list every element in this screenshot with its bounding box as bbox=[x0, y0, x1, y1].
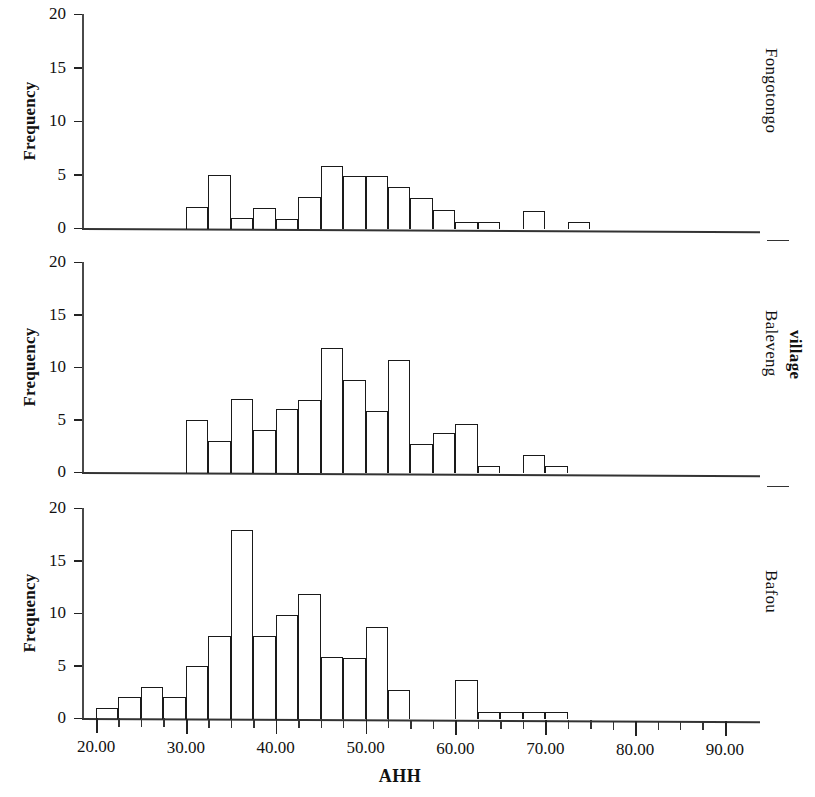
x-tick-major bbox=[96, 718, 98, 733]
x-tick-minor bbox=[163, 718, 164, 727]
y-axis-title: Frequency bbox=[20, 14, 40, 228]
x-tick-label: 60.00 bbox=[420, 740, 490, 757]
histogram-bar bbox=[276, 615, 298, 719]
village-group-label: village bbox=[785, 330, 805, 379]
y-tick-mark bbox=[74, 419, 82, 421]
histogram-bar bbox=[231, 530, 253, 719]
x-tick-major bbox=[635, 721, 637, 736]
x-tick-minor bbox=[590, 720, 591, 729]
histogram-bar bbox=[343, 176, 365, 229]
y-tick-mark bbox=[74, 228, 82, 230]
x-tick-major bbox=[276, 719, 278, 734]
y-tick-mark bbox=[74, 508, 82, 510]
histogram-bar bbox=[321, 348, 343, 473]
histogram-bar bbox=[568, 222, 590, 229]
y-tick-mark bbox=[74, 613, 82, 615]
y-tick-mark bbox=[74, 121, 82, 123]
panel-label-fongotongo: Fongotongo bbox=[761, 48, 781, 133]
y-tick-mark bbox=[74, 14, 82, 16]
histogram-bar bbox=[186, 420, 208, 474]
histogram-bar bbox=[343, 380, 365, 473]
x-tick-major bbox=[545, 720, 547, 735]
histogram-bar bbox=[253, 636, 275, 719]
x-tick-minor bbox=[343, 719, 344, 728]
histogram-bar bbox=[141, 687, 163, 720]
histogram-figure: 05101520FrequencyFongotongo05101520Frequ… bbox=[0, 0, 815, 797]
histogram-bar bbox=[366, 627, 388, 719]
x-tick-label: 20.00 bbox=[61, 738, 131, 755]
histogram-bar bbox=[433, 210, 455, 229]
histogram-bar bbox=[455, 222, 477, 229]
histogram-bar bbox=[433, 433, 455, 473]
histogram-bar bbox=[276, 219, 298, 229]
histogram-bar bbox=[208, 441, 230, 474]
histogram-bar bbox=[321, 657, 343, 719]
x-tick-minor bbox=[208, 719, 209, 728]
x-tick-label: 70.00 bbox=[510, 740, 580, 757]
histogram-bar bbox=[186, 207, 208, 229]
x-tick-minor bbox=[118, 718, 119, 727]
histogram-bar bbox=[388, 187, 410, 229]
x-tick-minor bbox=[702, 721, 703, 730]
histogram-bar bbox=[410, 198, 432, 229]
histogram-bar bbox=[118, 697, 140, 719]
y-axis-line-fongotongo bbox=[82, 14, 84, 230]
y-tick-mark bbox=[74, 262, 82, 264]
y-tick-mark bbox=[74, 367, 82, 369]
histogram-bar bbox=[523, 211, 545, 229]
histogram-bar bbox=[478, 712, 500, 719]
histogram-bar bbox=[545, 466, 567, 473]
histogram-bar bbox=[343, 658, 365, 719]
x-tick-label: 80.00 bbox=[600, 741, 670, 758]
x-tick-minor bbox=[523, 720, 524, 729]
x-tick-label: 90.00 bbox=[690, 741, 760, 758]
histogram-bar bbox=[545, 712, 567, 719]
x-axis-title: AHH bbox=[0, 766, 800, 787]
histogram-bar bbox=[366, 411, 388, 473]
x-tick-minor bbox=[388, 719, 389, 728]
histogram-bar bbox=[253, 208, 275, 229]
y-tick-mark bbox=[74, 718, 82, 720]
x-tick-minor bbox=[680, 721, 681, 730]
histogram-bar bbox=[253, 430, 275, 473]
x-tick-minor bbox=[658, 721, 659, 730]
histogram-bar bbox=[523, 455, 545, 473]
y-axis-line-bafou bbox=[82, 508, 84, 720]
x-tick-minor bbox=[253, 719, 254, 728]
y-tick-mark bbox=[74, 174, 82, 176]
panel-label-baleveng: Baleveng bbox=[761, 310, 781, 377]
histogram-bar bbox=[478, 222, 500, 229]
histogram-bar bbox=[523, 712, 545, 719]
x-tick-minor bbox=[321, 719, 322, 728]
x-tick-minor bbox=[298, 719, 299, 728]
x-tick-minor bbox=[410, 720, 411, 729]
panel-label-bafou: Bafou bbox=[761, 570, 781, 613]
x-tick-minor bbox=[500, 720, 501, 729]
x-tick-major bbox=[186, 719, 188, 734]
histogram-bar bbox=[298, 594, 320, 719]
y-tick-mark bbox=[74, 472, 82, 474]
histogram-bar bbox=[208, 175, 230, 230]
panel-divider bbox=[767, 240, 789, 241]
histogram-bar bbox=[321, 166, 343, 229]
histogram-bar bbox=[388, 360, 410, 473]
histogram-bar bbox=[186, 666, 208, 720]
histogram-bar bbox=[231, 399, 253, 474]
x-tick-label: 30.00 bbox=[151, 739, 221, 756]
y-axis-line-baleveng bbox=[82, 262, 84, 474]
y-axis-title: Frequency bbox=[20, 508, 40, 718]
x-tick-minor bbox=[141, 718, 142, 727]
y-tick-mark bbox=[74, 665, 82, 667]
x-tick-minor bbox=[568, 720, 569, 729]
histogram-bar bbox=[366, 176, 388, 229]
panel-divider bbox=[767, 486, 789, 487]
histogram-bar bbox=[276, 409, 298, 473]
histogram-bar bbox=[410, 444, 432, 473]
x-tick-label: 40.00 bbox=[241, 739, 311, 756]
histogram-bar bbox=[96, 708, 118, 720]
histogram-bar bbox=[478, 466, 500, 473]
x-tick-minor bbox=[231, 719, 232, 728]
y-tick-mark bbox=[74, 67, 82, 69]
histogram-bar bbox=[231, 218, 253, 229]
y-tick-mark bbox=[74, 560, 82, 562]
